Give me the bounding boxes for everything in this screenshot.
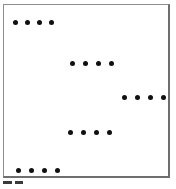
data-point-dot [96, 61, 101, 66]
data-point-dot [13, 20, 18, 25]
data-point-dot [161, 95, 166, 100]
caption-fragments [3, 181, 43, 187]
data-point-dot [109, 61, 114, 66]
data-point-dot [70, 61, 75, 66]
data-point-dot [83, 61, 88, 66]
dot-group-5 [4, 168, 168, 174]
dot-group-4 [4, 130, 168, 136]
figure-root [0, 0, 176, 189]
data-point-dot [49, 20, 54, 25]
data-point-dot [55, 168, 60, 173]
data-point-dot [135, 95, 140, 100]
data-point-dot [148, 95, 153, 100]
dot-group-3 [4, 95, 168, 101]
data-point-dot [94, 130, 99, 135]
dot-group-1 [4, 20, 168, 26]
caption-mark-left [3, 181, 12, 184]
data-point-dot [68, 130, 73, 135]
caption-mark-right [15, 181, 23, 184]
plot-area [4, 5, 168, 176]
data-point-dot [29, 168, 34, 173]
data-point-dot [122, 95, 127, 100]
data-point-dot [37, 20, 42, 25]
data-point-dot [16, 168, 21, 173]
data-point-dot [25, 20, 30, 25]
figure-panel [3, 4, 170, 178]
dot-group-2 [4, 61, 168, 67]
data-point-dot [42, 168, 47, 173]
data-point-dot [81, 130, 86, 135]
data-point-dot [107, 130, 112, 135]
